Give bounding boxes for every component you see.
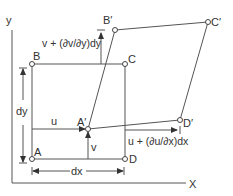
x-axis-label: X	[189, 178, 197, 190]
v-label: v	[91, 141, 97, 153]
u-label: u	[51, 115, 57, 127]
dx-dimension: dx	[32, 164, 124, 177]
dx-label: dx	[71, 165, 83, 177]
label-d: D	[129, 153, 137, 165]
label-c: C	[128, 53, 136, 65]
point-b	[30, 62, 35, 67]
label-a-prime: A′	[77, 116, 86, 128]
point-d-prime	[178, 118, 183, 123]
point-c	[123, 62, 128, 67]
label-a: A	[34, 146, 42, 158]
point-b-prime	[113, 28, 118, 33]
y-axis-label: y	[6, 14, 12, 26]
label-d-prime: D′	[183, 117, 193, 129]
v-velocity: v	[88, 132, 97, 159]
v-top-label: v + (∂v/∂y)dy	[42, 37, 102, 49]
point-c-prime	[206, 20, 211, 25]
label-b-prime: B′	[103, 14, 112, 26]
dy-label: dy	[16, 105, 28, 117]
label-c-prime: C′	[211, 16, 221, 28]
edge-b-prime-c-prime	[115, 22, 208, 30]
label-b: B	[33, 50, 40, 62]
edge-c-prime-d-prime	[180, 22, 208, 120]
point-d	[123, 157, 128, 162]
deformed-element	[88, 22, 208, 129]
u-right-label: u + (∂u/∂x)dx	[128, 135, 189, 147]
edge-a-prime-d-prime	[88, 120, 180, 129]
v-top-velocity: v + (∂v/∂y)dy	[42, 30, 105, 64]
original-element	[32, 64, 125, 159]
dy-dimension: dy	[16, 68, 30, 163]
fluid-element-deformation-diagram: y X dy	[0, 0, 233, 196]
u-right-velocity: u + (∂u/∂x)dx	[125, 126, 189, 147]
